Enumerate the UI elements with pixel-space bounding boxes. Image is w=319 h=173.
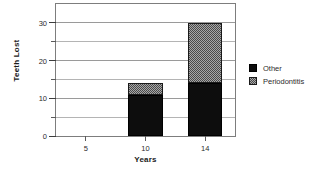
bar-segment (128, 83, 163, 94)
x-axis-tick-label: 5 (84, 144, 88, 153)
bar-segment (188, 83, 223, 136)
y-axis-tick (49, 60, 56, 61)
y-axis-tick-label: 20 (39, 56, 47, 65)
plot-area: 010203051014 (55, 3, 236, 137)
y-axis-tick (51, 79, 56, 80)
x-axis-tick-label: 14 (201, 144, 209, 153)
y-axis-tick (49, 22, 56, 23)
legend-item-periodontitis: Periodontitis (249, 75, 317, 87)
y-axis-tick-label: 0 (43, 132, 47, 141)
x-axis-tick (85, 136, 86, 141)
chart-figure: Teeth Lost 010203051014 Years Other Peri… (0, 0, 319, 173)
legend-item-other: Other (249, 62, 317, 74)
bar-segment (188, 23, 223, 83)
legend-label-other: Other (263, 64, 282, 73)
x-axis-tick (145, 136, 146, 141)
x-axis-title: Years (55, 155, 236, 164)
x-axis-tick (205, 136, 206, 141)
y-axis-tick (51, 41, 56, 42)
legend-swatch-other-icon (249, 64, 257, 72)
y-axis-tick (49, 98, 56, 99)
plot-inner: 010203051014 (56, 4, 235, 136)
y-axis-tick-label: 30 (39, 18, 47, 27)
bar-segment (128, 95, 163, 136)
y-axis-tick-label: 10 (39, 94, 47, 103)
chart-legend: Other Periodontitis (249, 62, 317, 88)
y-axis-tick (51, 117, 56, 118)
legend-label-periodontitis: Periodontitis (263, 77, 304, 86)
legend-swatch-periodontitis-icon (249, 77, 257, 85)
y-axis-title: Teeth Lost (12, 19, 21, 103)
y-axis-tick (49, 136, 56, 137)
x-axis-tick-label: 10 (141, 144, 149, 153)
